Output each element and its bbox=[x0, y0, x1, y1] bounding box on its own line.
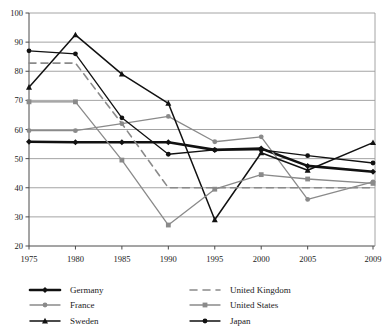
data-point bbox=[371, 181, 376, 186]
line-chart-plot: 2030405060708090100 19751980198519901995… bbox=[0, 0, 387, 331]
data-point bbox=[27, 48, 32, 53]
svg-text:40: 40 bbox=[15, 183, 24, 193]
data-point bbox=[259, 172, 264, 177]
legend-swatch-japan bbox=[188, 315, 222, 327]
legend-item-germany: Germany bbox=[28, 283, 188, 296]
svg-text:1975: 1975 bbox=[21, 254, 38, 264]
axis-lines bbox=[26, 13, 376, 250]
data-point bbox=[73, 51, 78, 56]
data-point bbox=[165, 139, 171, 145]
data-point bbox=[259, 147, 264, 152]
legend-item-united-kingdom: United Kingdom bbox=[188, 283, 380, 296]
svg-text:70: 70 bbox=[15, 95, 24, 105]
legend-label-sweden: Sweden bbox=[70, 316, 99, 326]
data-point bbox=[27, 128, 32, 133]
svg-text:1995: 1995 bbox=[206, 254, 223, 264]
legend-swatch-united-states bbox=[188, 299, 222, 311]
data-point bbox=[73, 128, 78, 133]
chart-container: 2030405060708090100 19751980198519901995… bbox=[0, 0, 387, 331]
data-point bbox=[26, 139, 32, 145]
legend-label-germany: Germany bbox=[70, 285, 104, 295]
legend-label-united-kingdom: United Kingdom bbox=[230, 285, 291, 295]
svg-text:50: 50 bbox=[15, 154, 24, 164]
legend-swatch-france bbox=[28, 299, 62, 311]
svg-text:1980: 1980 bbox=[67, 254, 84, 264]
legend-column-left: Germany France Sweden bbox=[28, 283, 188, 327]
data-point bbox=[259, 134, 264, 139]
data-point bbox=[166, 223, 171, 228]
data-point bbox=[165, 100, 171, 106]
data-point bbox=[305, 197, 310, 202]
svg-text:80: 80 bbox=[15, 66, 24, 76]
data-point bbox=[212, 147, 217, 152]
series-sweden bbox=[26, 32, 376, 223]
svg-text:100: 100 bbox=[10, 8, 23, 18]
series-germany bbox=[26, 139, 376, 175]
series-united-kingdom bbox=[29, 63, 373, 188]
data-point bbox=[166, 152, 171, 157]
data-point bbox=[72, 139, 78, 145]
svg-text:20: 20 bbox=[15, 241, 24, 251]
legend-label-united-states: United States bbox=[230, 300, 278, 310]
data-point bbox=[119, 139, 125, 145]
data-point bbox=[166, 114, 171, 119]
legend-swatch-sweden bbox=[28, 315, 62, 327]
svg-text:2005: 2005 bbox=[299, 254, 316, 264]
svg-text:2000: 2000 bbox=[253, 254, 270, 264]
legend-label-france: France bbox=[70, 300, 95, 310]
legend-swatch-germany bbox=[28, 284, 62, 296]
svg-text:90: 90 bbox=[15, 37, 24, 47]
svg-text:1990: 1990 bbox=[160, 254, 177, 264]
svg-text:1985: 1985 bbox=[113, 254, 130, 264]
legend-swatch-united-kingdom bbox=[188, 284, 222, 296]
x-axis-tick-labels: 19751980198519901995200020052009 bbox=[21, 254, 382, 264]
data-point bbox=[212, 187, 217, 192]
legend-item-japan: Japan bbox=[188, 314, 380, 327]
chart-legend: Germany France Sweden United Kingdom Uni… bbox=[28, 283, 380, 329]
legend-column-right: United Kingdom United States Japan bbox=[188, 283, 380, 327]
data-point bbox=[27, 99, 32, 104]
data-point bbox=[212, 139, 217, 144]
legend-item-united-states: United States bbox=[188, 299, 380, 312]
y-axis-tick-labels: 2030405060708090100 bbox=[10, 8, 23, 251]
svg-text:60: 60 bbox=[15, 125, 24, 135]
legend-item-france: France bbox=[28, 299, 188, 312]
data-point bbox=[119, 115, 124, 120]
data-point bbox=[119, 158, 124, 163]
svg-text:30: 30 bbox=[15, 212, 24, 222]
svg-text:2009: 2009 bbox=[365, 254, 382, 264]
data-point bbox=[371, 161, 376, 166]
data-point bbox=[73, 99, 78, 104]
legend-label-japan: Japan bbox=[230, 316, 251, 326]
data-point bbox=[305, 153, 310, 158]
legend-item-sweden: Sweden bbox=[28, 314, 188, 327]
data-point bbox=[72, 32, 78, 38]
data-point bbox=[305, 177, 310, 182]
